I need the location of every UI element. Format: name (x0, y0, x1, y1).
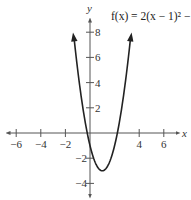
function-equation: f(x) = 2(x − 1)² − 3 (111, 10, 191, 23)
x-axis-label: x (181, 127, 187, 139)
x-tick-label: 4 (136, 138, 142, 150)
parabola-curve (74, 37, 131, 170)
y-tick-label: −2 (75, 152, 87, 164)
curve-arrow-icon (71, 32, 77, 41)
y-axis-label: y (86, 2, 92, 14)
y-tick-label: 2 (95, 102, 101, 114)
x-tick-label: 6 (161, 138, 167, 150)
y-tick-label: −4 (75, 177, 87, 189)
x-tick-label: −2 (60, 138, 72, 150)
x-tick-label: −6 (10, 138, 22, 150)
curve-arrow-icon (127, 32, 133, 41)
y-tick-label: 4 (95, 77, 101, 89)
y-tick-label: 8 (95, 26, 101, 38)
function-graph: −6−4−246 8642−2−4 x y f(x) = 2(x − 1)² −… (0, 0, 191, 200)
x-tick-label: −4 (35, 138, 47, 150)
y-tick-label: 6 (95, 51, 101, 63)
